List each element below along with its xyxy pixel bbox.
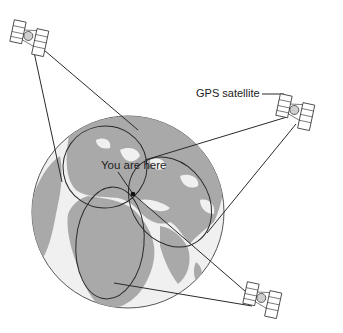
gps-diagram: You are here GPS satellite — [0, 0, 343, 333]
you-are-here-label: You are here — [101, 160, 166, 172]
signal-line — [44, 50, 138, 130]
signal-line — [207, 124, 296, 233]
satellite-icon — [241, 282, 282, 319]
satellite-icon — [8, 20, 49, 57]
gps-satellite-label: GPS satellite — [196, 88, 260, 99]
diagram-canvas — [0, 0, 343, 333]
position-marker — [131, 192, 136, 197]
